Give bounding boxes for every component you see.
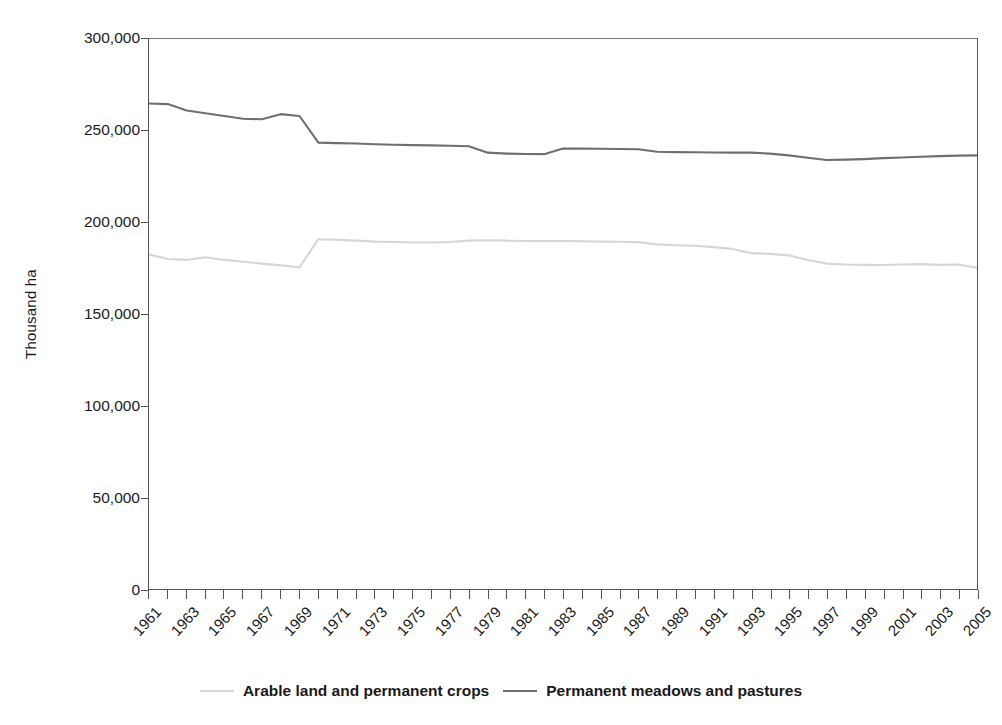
x-axis-tick: [337, 590, 338, 599]
x-axis-tick: [148, 590, 149, 599]
x-axis-tick-label: 1991: [685, 603, 730, 650]
x-axis-tick: [752, 590, 753, 599]
x-axis-tick: [412, 590, 413, 599]
x-axis-tick: [469, 590, 470, 599]
y-axis-tick-label: 250,000: [44, 121, 140, 139]
series-line: [149, 239, 977, 268]
x-axis-tick-label: 1975: [383, 603, 428, 650]
chart-legend: Arable land and permanent cropsPermanent…: [0, 682, 1002, 700]
x-axis-tick: [827, 590, 828, 599]
y-axis-tick-label: 100,000: [44, 397, 140, 415]
y-axis-tick-labels: 050,000100,000150,000200,000250,000300,0…: [44, 0, 140, 725]
y-axis-tick-label: 0: [44, 581, 140, 599]
x-axis-tick: [695, 590, 696, 599]
x-axis-tick-label: 1971: [308, 603, 353, 650]
x-axis-tick: [488, 590, 489, 599]
x-axis-tick: [223, 590, 224, 599]
x-axis-tick-label: 2003: [912, 603, 957, 650]
x-axis-tick-label: 1963: [157, 603, 202, 650]
x-axis-tick: [506, 590, 507, 599]
x-axis-tick-label: 1969: [270, 603, 315, 650]
x-axis-tick: [846, 590, 847, 599]
x-axis-tick-label: 1977: [421, 603, 466, 650]
x-axis-tick-label: 1987: [610, 603, 655, 650]
x-axis-tick-label: 1965: [195, 603, 240, 650]
x-axis-tick: [393, 590, 394, 599]
legend-line-icon: [200, 690, 234, 692]
x-axis-tick: [978, 590, 979, 599]
legend-item[interactable]: Arable land and permanent crops: [200, 682, 489, 700]
x-axis-tick: [940, 590, 941, 599]
legend-label: Arable land and permanent crops: [243, 682, 489, 700]
x-axis-tick: [242, 590, 243, 599]
x-axis-tick-label: 1981: [497, 603, 542, 650]
x-axis-tick-label: 1973: [346, 603, 391, 650]
y-axis-tick-label: 150,000: [44, 305, 140, 323]
y-axis-title: Thousand ha: [22, 214, 39, 414]
x-axis-tick: [205, 590, 206, 599]
x-axis-tick-label: 2005: [949, 603, 994, 650]
x-axis-tick-label: 1985: [572, 603, 617, 650]
x-axis-tick: [261, 590, 262, 599]
legend-line-icon: [503, 690, 537, 692]
x-axis-tick: [884, 590, 885, 599]
x-axis-tick-label: 1995: [761, 603, 806, 650]
series-line: [149, 104, 977, 160]
x-axis-tick-label: 1993: [723, 603, 768, 650]
x-axis-tick: [921, 590, 922, 599]
x-axis-tick-label: 2001: [874, 603, 919, 650]
x-axis-tick: [563, 590, 564, 599]
x-axis-tick: [582, 590, 583, 599]
x-axis-tick: [450, 590, 451, 599]
x-axis-tick: [771, 590, 772, 599]
x-axis-tick: [318, 590, 319, 599]
legend-item[interactable]: Permanent meadows and pastures: [503, 682, 802, 700]
x-axis-tick: [657, 590, 658, 599]
x-axis-tick: [374, 590, 375, 599]
plot-area: [148, 38, 978, 590]
y-axis-tick-label: 200,000: [44, 213, 140, 231]
x-axis-tick: [186, 590, 187, 599]
x-axis-tick: [808, 590, 809, 599]
line-chart: Thousand ha 050,000100,000150,000200,000…: [0, 0, 1002, 725]
x-axis-tick: [544, 590, 545, 599]
x-axis-tick: [356, 590, 357, 599]
y-axis-tick-label: 50,000: [44, 489, 140, 507]
x-axis-tick: [789, 590, 790, 599]
x-axis-tick-label: 1967: [232, 603, 277, 650]
x-axis-tick: [733, 590, 734, 599]
x-axis-tick: [620, 590, 621, 599]
x-axis-tick: [714, 590, 715, 599]
legend-label: Permanent meadows and pastures: [546, 682, 802, 700]
series-lines: [149, 39, 977, 589]
x-axis-tick: [299, 590, 300, 599]
x-axis-tick: [525, 590, 526, 599]
x-axis-tick-label: 1983: [534, 603, 579, 650]
x-axis-tick-label: 1989: [647, 603, 692, 650]
y-axis-tick-label: 300,000: [44, 29, 140, 47]
x-axis-tick: [903, 590, 904, 599]
x-axis-tick: [167, 590, 168, 599]
x-axis-tick: [959, 590, 960, 599]
x-axis-tick: [638, 590, 639, 599]
x-axis-tick: [280, 590, 281, 599]
x-axis-tick: [676, 590, 677, 599]
x-axis-tick: [865, 590, 866, 599]
x-axis-tick: [431, 590, 432, 599]
x-axis-tick-label: 1997: [798, 603, 843, 650]
x-axis-tick-label: 1999: [836, 603, 881, 650]
x-axis-tick: [601, 590, 602, 599]
x-axis-tick-label: 1979: [459, 603, 504, 650]
